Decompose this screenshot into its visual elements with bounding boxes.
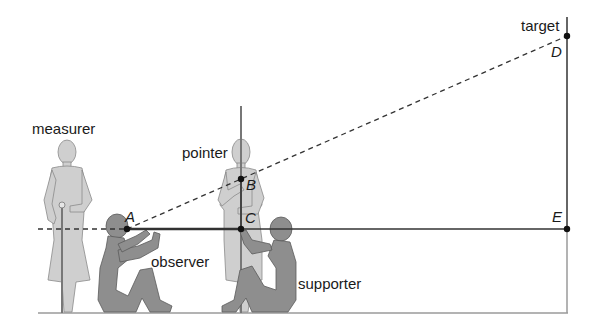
sighting-diagram: A B C D E measurer pointer observer supp… bbox=[0, 0, 603, 328]
point-C-dot bbox=[238, 226, 244, 232]
point-A-label: A bbox=[124, 208, 135, 225]
target-label: target bbox=[521, 17, 560, 34]
stick-knob bbox=[59, 202, 65, 208]
point-A-dot bbox=[124, 226, 130, 232]
point-E-dot bbox=[564, 226, 570, 232]
point-C-label: C bbox=[245, 209, 256, 226]
measurer-label: measurer bbox=[32, 120, 95, 137]
point-B-dot bbox=[238, 176, 244, 182]
point-E-label: E bbox=[552, 208, 563, 225]
pointer-label: pointer bbox=[182, 144, 228, 161]
dashed-sight-line-AD bbox=[127, 36, 567, 229]
point-D-label: D bbox=[551, 43, 562, 60]
supporter-label: supporter bbox=[298, 275, 361, 292]
point-D-dot bbox=[564, 33, 570, 39]
point-B-label: B bbox=[246, 176, 256, 193]
measurer-figure bbox=[44, 140, 92, 312]
observer-label: observer bbox=[151, 253, 209, 270]
